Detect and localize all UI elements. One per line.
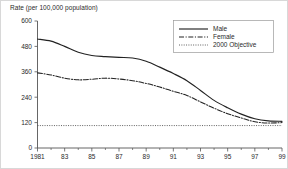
x-axis-tick-label: 95 — [224, 153, 232, 160]
chart-plot-area: 0120240360480600 1981838587899193959799 … — [1, 1, 288, 169]
y-axis-tick-label: 360 — [21, 68, 32, 75]
legend-label-male: Male — [213, 25, 227, 32]
x-axis-tick-label: 87 — [115, 153, 123, 160]
y-axis-tick-label: 600 — [21, 17, 32, 24]
y-axis-tick-group: 0120240360480600 — [21, 17, 37, 151]
x-axis-tick-label: 85 — [88, 153, 96, 160]
y-axis-tick-label: 480 — [21, 43, 32, 50]
x-axis-tick-label: 83 — [61, 153, 69, 160]
y-axis-tick-label: 120 — [21, 119, 32, 126]
y-axis-tick-label: 0 — [28, 144, 32, 151]
legend-label-2000-objective: 2000 Objective — [213, 41, 257, 49]
chart-figure: Rate (per 100,000 population) 0120240360… — [0, 0, 288, 169]
chart-legend: Male Female 2000 Objective — [174, 21, 274, 53]
x-axis-tick-group: 1981838587899193959799 — [30, 148, 286, 160]
x-axis-tick-label: 89 — [143, 153, 151, 160]
x-axis-tick-label: 1981 — [30, 153, 45, 160]
x-axis-tick-label: 93 — [197, 153, 205, 160]
x-axis-tick-label: 99 — [278, 153, 286, 160]
x-axis-tick-label: 91 — [170, 153, 178, 160]
x-axis-tick-label: 97 — [251, 153, 259, 160]
y-axis-tick-label: 240 — [21, 94, 32, 101]
legend-label-female: Female — [213, 33, 235, 40]
